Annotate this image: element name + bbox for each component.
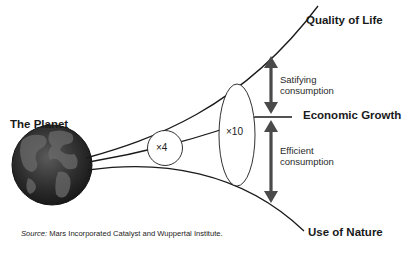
economic-growth-line [89,117,292,162]
quality-of-life-label: Quality of Life [306,14,383,26]
x10-multiplier-label: ×10 [226,126,243,137]
efficient-consumption-label: Efficient consumption [280,145,334,167]
satisfying-consumption-label: Satifying consumption [280,74,334,96]
planet-globe-icon [12,125,92,205]
economic-growth-label: Economic Growth [303,109,401,121]
efficient-consumption-line2: consumption [280,156,334,167]
efficient-consumption-arrow-icon [264,120,278,203]
source-prefix: Source: [21,229,47,238]
the-planet-label: The Planet [10,118,68,130]
source-text: Mars Incorporated Catalyst and Wuppertal… [47,229,222,238]
satisfying-consumption-line2: consumption [280,85,334,96]
use-of-nature-label: Use of Nature [308,226,383,238]
x4-multiplier-label: ×4 [156,142,167,153]
satisfying-consumption-arrow-icon [264,56,278,114]
diagram-canvas: The Planet Quality of Life Economic Grow… [0,0,408,257]
efficient-consumption-line1: Efficient [280,145,334,156]
satisfying-consumption-line1: Satifying [280,74,334,85]
source-caption: Source: Mars Incorporated Catalyst and W… [21,229,223,238]
